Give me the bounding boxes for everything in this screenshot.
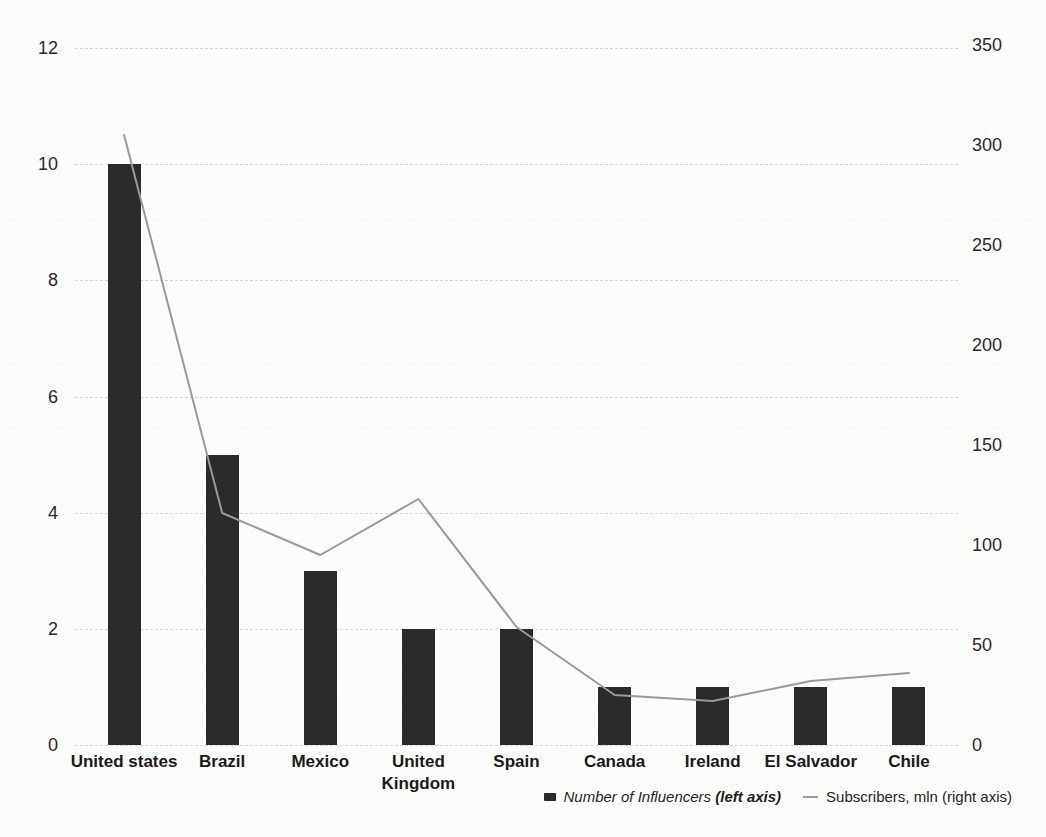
- legend-bar-swatch-icon: [544, 793, 556, 801]
- y-axis-left-tick-label: 8: [48, 270, 58, 291]
- gridline: [75, 164, 958, 165]
- gridline: [75, 48, 958, 49]
- chart-canvas: 024681012 050100150200250300350 United s…: [0, 0, 1046, 837]
- legend-line-swatch-icon: [803, 796, 818, 798]
- y-axis-right-tick-label: 0: [972, 735, 982, 756]
- y-axis-right-tick-label: 300: [972, 135, 1002, 156]
- influencers-bar: [696, 687, 729, 745]
- y-axis-right-tick-label: 350: [972, 35, 1002, 56]
- legend-influencers-axis-note: (left axis): [715, 788, 781, 805]
- gridline: [75, 397, 958, 398]
- y-axis-left-tick-label: 10: [38, 154, 58, 175]
- influencers-bar: [892, 687, 925, 745]
- influencers-bar: [108, 164, 141, 745]
- influencers-bar: [598, 687, 631, 745]
- influencers-bar: [500, 629, 533, 745]
- y-axis-left-tick-label: 4: [48, 502, 58, 523]
- category-label: Chile: [847, 751, 971, 773]
- legend-influencers-label: Number of Influencers (left axis): [564, 788, 782, 805]
- influencers-bar: [794, 687, 827, 745]
- y-axis-left-tick-label: 6: [48, 386, 58, 407]
- y-axis-left-tick-label: 0: [48, 735, 58, 756]
- y-axis-right-tick-label: 150: [972, 435, 1002, 456]
- subscribers-line: [124, 135, 909, 701]
- y-axis-right-tick-label: 100: [972, 535, 1002, 556]
- y-axis-left-tick-label: 12: [38, 38, 58, 59]
- y-axis-right-tick-label: 250: [972, 235, 1002, 256]
- legend: Number of Influencers (left axis) Subscr…: [544, 788, 1013, 805]
- legend-influencers-name: Number of Influencers: [564, 788, 716, 805]
- influencers-bar: [402, 629, 435, 745]
- gridline: [75, 745, 958, 746]
- y-axis-left-tick-label: 2: [48, 618, 58, 639]
- gridline: [75, 280, 958, 281]
- y-axis-right-tick-label: 200: [972, 335, 1002, 356]
- legend-subscribers-label: Subscribers, mln (right axis): [826, 788, 1012, 805]
- influencers-bar: [304, 571, 337, 745]
- influencers-bar: [206, 455, 239, 745]
- y-axis-right-tick-label: 50: [972, 635, 992, 656]
